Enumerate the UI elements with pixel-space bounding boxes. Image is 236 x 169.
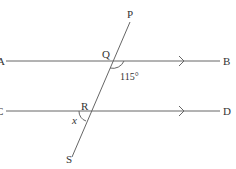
angle-arc-x [79,111,86,121]
label-s: S [66,154,72,165]
geometry-diagram [0,0,236,169]
label-a: A [0,56,5,67]
angle-label-x: x [72,115,77,126]
label-r: R [81,101,88,112]
label-c: C [0,106,3,117]
label-b: B [223,56,230,67]
label-p: P [127,9,133,20]
angle-label-115: 115° [120,72,139,82]
label-q: Q [102,49,110,60]
transversal-ps [72,22,130,157]
label-d: D [223,106,231,117]
